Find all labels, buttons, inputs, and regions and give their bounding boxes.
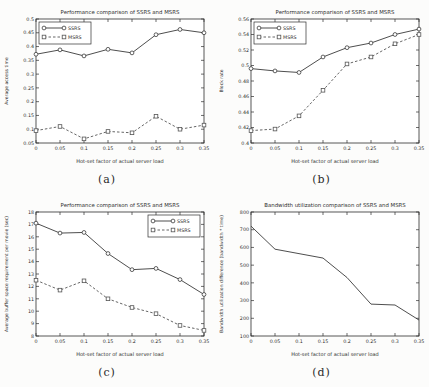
- svg-text:0.25: 0.25: [23, 86, 34, 91]
- svg-text:0.2: 0.2: [128, 339, 136, 344]
- svg-text:SSRS: SSRS: [68, 26, 80, 31]
- svg-text:8: 8: [31, 334, 34, 339]
- svg-text:MSRS: MSRS: [177, 228, 191, 233]
- chart-cell-d: Bandwidth utilization comparison of SSRS…: [214, 193, 429, 387]
- svg-text:14: 14: [28, 259, 34, 264]
- svg-text:0.05: 0.05: [269, 339, 280, 344]
- svg-text:0.5: 0.5: [26, 17, 34, 22]
- chart-b-caption: (b): [312, 173, 331, 186]
- svg-text:500: 500: [239, 263, 248, 268]
- svg-text:Average access time: Average access time: [4, 57, 9, 105]
- svg-text:0.44: 0.44: [238, 110, 249, 115]
- svg-text:0.05: 0.05: [269, 146, 280, 151]
- svg-text:0.35: 0.35: [199, 146, 210, 151]
- svg-text:0.56: 0.56: [238, 17, 249, 22]
- svg-text:9: 9: [31, 321, 34, 326]
- svg-text:0: 0: [249, 339, 252, 344]
- svg-text:700: 700: [239, 227, 248, 232]
- svg-text:0.1: 0.1: [295, 339, 303, 344]
- svg-text:0.4: 0.4: [241, 141, 249, 146]
- svg-text:Hot-set factor of actual serve: Hot-set factor of actual server load: [76, 351, 164, 357]
- svg-text:0.45: 0.45: [23, 30, 34, 35]
- svg-text:0.15: 0.15: [103, 339, 114, 344]
- chart-b-plot: Performance comparison of SSRS and MSRSH…: [216, 6, 428, 168]
- svg-text:Performance comparison of SSRS: Performance comparison of SSRS and MSRS: [61, 202, 180, 209]
- svg-text:0.42: 0.42: [238, 125, 249, 130]
- svg-text:0.35: 0.35: [23, 58, 34, 63]
- svg-text:0.48: 0.48: [238, 79, 249, 84]
- svg-text:Bandwidth utilization comparis: Bandwidth utilization comparison of SSRS…: [264, 202, 406, 209]
- svg-text:18: 18: [28, 210, 34, 215]
- svg-text:0.4: 0.4: [26, 44, 34, 49]
- chart-cell-a: Performance comparison of SSRS and MSRSH…: [0, 0, 214, 193]
- svg-text:16: 16: [28, 235, 34, 240]
- svg-text:0.54: 0.54: [238, 32, 249, 37]
- svg-text:0.15: 0.15: [103, 146, 114, 151]
- chart-cell-c: Performance comparison of SSRS and MSRSH…: [0, 193, 214, 387]
- svg-text:Hot-set factor of actual serve: Hot-set factor of actual server load: [76, 158, 164, 164]
- svg-text:0.05: 0.05: [55, 339, 66, 344]
- svg-text:0.05: 0.05: [55, 146, 66, 151]
- svg-text:0.1: 0.1: [80, 146, 88, 151]
- svg-text:800: 800: [239, 210, 248, 215]
- svg-text:600: 600: [239, 245, 248, 250]
- svg-text:0.3: 0.3: [176, 146, 184, 151]
- svg-text:0.05: 0.05: [23, 141, 34, 146]
- svg-text:0.3: 0.3: [176, 339, 184, 344]
- svg-text:0.35: 0.35: [413, 146, 424, 151]
- svg-text:SSRS: SSRS: [283, 26, 295, 31]
- svg-text:0: 0: [34, 339, 37, 344]
- svg-text:0.35: 0.35: [413, 339, 424, 344]
- svg-text:17: 17: [28, 222, 34, 227]
- svg-text:13: 13: [28, 272, 34, 277]
- svg-text:0.52: 0.52: [238, 48, 249, 53]
- chart-a-plot: Performance comparison of SSRS and MSRSH…: [1, 6, 213, 168]
- svg-text:0.3: 0.3: [391, 146, 399, 151]
- svg-text:0.1: 0.1: [295, 146, 303, 151]
- svg-text:0.25: 0.25: [365, 339, 376, 344]
- svg-text:Block rate: Block rate: [219, 69, 224, 92]
- svg-text:11: 11: [28, 297, 34, 302]
- svg-text:0.1: 0.1: [26, 127, 34, 132]
- svg-text:0.35: 0.35: [199, 339, 210, 344]
- svg-text:0.15: 0.15: [317, 146, 328, 151]
- svg-text:MSRS: MSRS: [283, 35, 297, 40]
- svg-text:0.2: 0.2: [343, 339, 351, 344]
- svg-text:0.3: 0.3: [26, 72, 34, 77]
- svg-text:0.15: 0.15: [317, 339, 328, 344]
- svg-text:0.5: 0.5: [241, 63, 249, 68]
- svg-text:0.2: 0.2: [26, 99, 34, 104]
- svg-text:Performance comparison of SSRS: Performance comparison of SSRS and MSRS: [275, 9, 394, 16]
- svg-text:MSRS: MSRS: [68, 35, 82, 40]
- svg-text:0.25: 0.25: [151, 339, 162, 344]
- svg-text:0.2: 0.2: [128, 146, 136, 151]
- chart-a-caption: (a): [98, 173, 116, 186]
- svg-text:Hot-set factor of actual serve: Hot-set factor of actual server load: [291, 158, 379, 164]
- chart-c-caption: (c): [98, 366, 116, 379]
- svg-text:0: 0: [34, 146, 37, 151]
- svg-text:Bandwidth utilization differen: Bandwidth utilization difference (bandwi…: [219, 215, 224, 333]
- svg-text:100: 100: [239, 334, 248, 339]
- svg-text:0: 0: [249, 146, 252, 151]
- svg-text:10: 10: [28, 309, 34, 314]
- svg-text:Hot-set factor of actual serve: Hot-set factor of actual server load: [291, 351, 379, 357]
- svg-text:Performance comparison of SSRS: Performance comparison of SSRS and MSRS: [61, 9, 180, 16]
- svg-text:0.46: 0.46: [238, 94, 249, 99]
- svg-text:400: 400: [239, 281, 248, 286]
- svg-text:12: 12: [28, 284, 34, 289]
- svg-text:0.1: 0.1: [80, 339, 88, 344]
- svg-text:0.2: 0.2: [343, 146, 351, 151]
- svg-text:0.25: 0.25: [365, 146, 376, 151]
- svg-text:200: 200: [239, 316, 248, 321]
- svg-text:0.25: 0.25: [151, 146, 162, 151]
- chart-d-plot: Bandwidth utilization comparison of SSRS…: [216, 199, 428, 361]
- chart-c-plot: Performance comparison of SSRS and MSRSH…: [1, 199, 213, 361]
- svg-text:15: 15: [28, 247, 34, 252]
- svg-text:0.15: 0.15: [23, 113, 34, 118]
- svg-text:Average buffer space requireme: Average buffer space requirement per mov…: [4, 216, 9, 332]
- chart-d-caption: (d): [312, 366, 331, 379]
- chart-cell-b: Performance comparison of SSRS and MSRSH…: [214, 0, 429, 193]
- figure-grid: Performance comparison of SSRS and MSRSH…: [0, 0, 429, 387]
- svg-text:0.3: 0.3: [391, 339, 399, 344]
- svg-text:SSRS: SSRS: [177, 219, 189, 224]
